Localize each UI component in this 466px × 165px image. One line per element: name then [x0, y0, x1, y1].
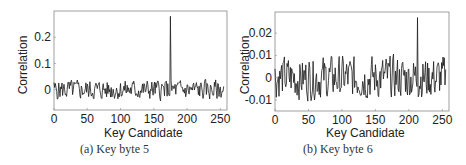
x-tick-label: 250	[208, 112, 232, 126]
y-tick-label: 0.01	[233, 48, 272, 62]
y-tick-label: 0.1	[12, 57, 51, 71]
x-tick-label: 0	[42, 112, 66, 126]
correlation-line	[275, 18, 446, 102]
plot-frame	[275, 12, 449, 111]
chart-panel-a: Correlation Key Candidate (a) Key byte 5…	[0, 0, 233, 165]
chart-panel-b: Correlation Key Candidate (b) Key byte 6…	[233, 0, 466, 165]
y-tick-label: -0.01	[233, 93, 272, 107]
caption-a: (a) Key byte 5	[80, 142, 149, 157]
x-tick-label: 150	[142, 112, 166, 126]
y-tick-label: 0.02	[233, 26, 272, 40]
x-tick-label: 200	[175, 112, 199, 126]
x-axis-label-a: Key Candidate	[104, 126, 183, 140]
y-tick-label: 0	[12, 83, 51, 97]
x-tick-label: 250	[430, 113, 454, 127]
correlation-line	[54, 16, 224, 101]
x-tick-label: 100	[330, 113, 354, 127]
y-axis-label-b: Correlation	[238, 30, 252, 100]
y-tick-label: 0	[233, 71, 272, 85]
x-tick-label: 150	[363, 113, 387, 127]
y-tick-label: 0.2	[12, 30, 51, 44]
x-tick-label: 200	[397, 113, 421, 127]
x-tick-label: 50	[75, 112, 99, 126]
x-axis-label-b: Key Candidate	[326, 126, 405, 140]
caption-b: (b) Key byte 6	[303, 142, 373, 157]
x-tick-label: 0	[263, 113, 287, 127]
x-tick-label: 100	[109, 112, 133, 126]
x-tick-label: 50	[296, 113, 320, 127]
